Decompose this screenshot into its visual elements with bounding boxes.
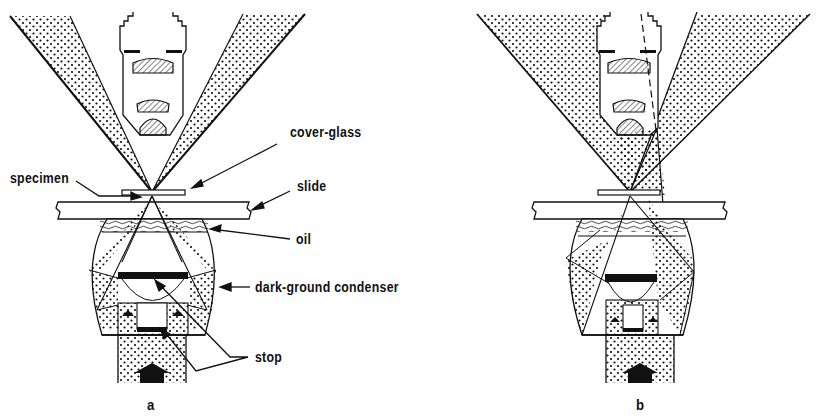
cover-glass-b <box>598 190 660 195</box>
stop-top <box>118 272 188 279</box>
slide <box>56 202 251 219</box>
label-specimen: specimen <box>10 170 69 186</box>
panel-label-b: b <box>636 396 644 413</box>
darkground-diagram <box>0 0 817 416</box>
slide-b <box>532 202 727 219</box>
label-oil: oil <box>296 231 311 247</box>
oil-layer <box>100 220 208 232</box>
light-tube-b <box>606 335 674 383</box>
light-tube <box>118 335 186 383</box>
panel-b <box>477 12 810 383</box>
label-slide: slide <box>297 178 326 194</box>
label-condenser: dark-ground condenser <box>255 279 399 295</box>
panel-label-a: a <box>147 396 155 413</box>
objective-lens-b <box>597 12 661 135</box>
objective-lens <box>120 12 186 135</box>
label-stop: stop <box>255 349 282 365</box>
panel-a <box>10 12 305 383</box>
label-cover-glass: cover-glass <box>290 124 361 140</box>
